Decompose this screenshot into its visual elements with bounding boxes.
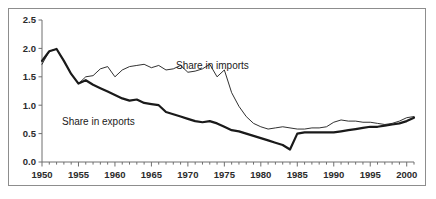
x-tick-label: 1960 bbox=[104, 169, 125, 180]
line-chart: 0.00.51.01.52.02.51950195519601965197019… bbox=[0, 0, 436, 199]
x-tick-label: 1995 bbox=[360, 169, 382, 180]
figure: 0.00.51.01.52.02.51950195519601965197019… bbox=[0, 0, 436, 199]
x-tick-label: 1965 bbox=[141, 169, 163, 180]
x-tick-label: 1950 bbox=[31, 169, 52, 180]
x-tick-label: 2000 bbox=[396, 169, 417, 180]
y-tick-label: 2.5 bbox=[23, 14, 37, 25]
y-tick-label: 0.5 bbox=[23, 128, 37, 139]
x-tick-label: 1955 bbox=[68, 169, 90, 180]
y-tick-label: 1.5 bbox=[23, 71, 37, 82]
series-annotation-share-in-imports: Share in imports bbox=[176, 60, 249, 71]
x-tick-label: 1970 bbox=[177, 169, 198, 180]
x-tick-label: 1975 bbox=[214, 169, 236, 180]
series-annotation-share-in-exports: Share in exports bbox=[62, 116, 135, 127]
y-tick-label: 0.0 bbox=[23, 156, 36, 167]
x-tick-label: 1985 bbox=[287, 169, 309, 180]
y-tick-label: 1.0 bbox=[23, 100, 36, 111]
y-tick-label: 2.0 bbox=[23, 43, 36, 54]
x-tick-label: 1990 bbox=[323, 169, 344, 180]
x-tick-label: 1980 bbox=[250, 169, 271, 180]
